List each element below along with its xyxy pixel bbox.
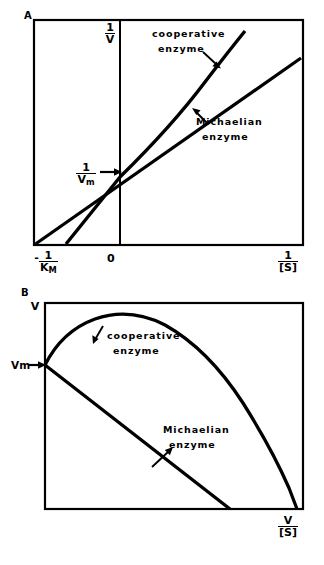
panel-b-michaelian-line — [45, 365, 230, 509]
panel-b-cooperative-arrow — [92, 326, 103, 344]
panel-a-michaelian-line — [36, 58, 302, 244]
enzyme-kinetics-figure: A 1 V cooperative enzyme Michaelian enzy… — [0, 0, 324, 565]
panel-b-intercept-arrow — [28, 361, 46, 369]
panel-a-plot-area — [0, 0, 324, 285]
panel-b-plot-area — [0, 283, 324, 565]
panel-b-frame — [45, 303, 303, 509]
panel-a-cooperative-arrow — [203, 52, 221, 69]
panel-a-michaelian-arrow — [192, 108, 208, 124]
panel-b-cooperative-curve — [45, 314, 297, 509]
panel-a-lineweaver-burk: A 1 V cooperative enzyme Michaelian enzy… — [0, 0, 324, 285]
panel-a-cooperative-curve — [66, 31, 245, 244]
panel-a-intercept-arrow — [100, 168, 122, 176]
panel-a-frame — [34, 20, 303, 245]
panel-b-eadie-hofstee: B V Vm cooperative enzyme Michaelian enz… — [0, 283, 324, 565]
